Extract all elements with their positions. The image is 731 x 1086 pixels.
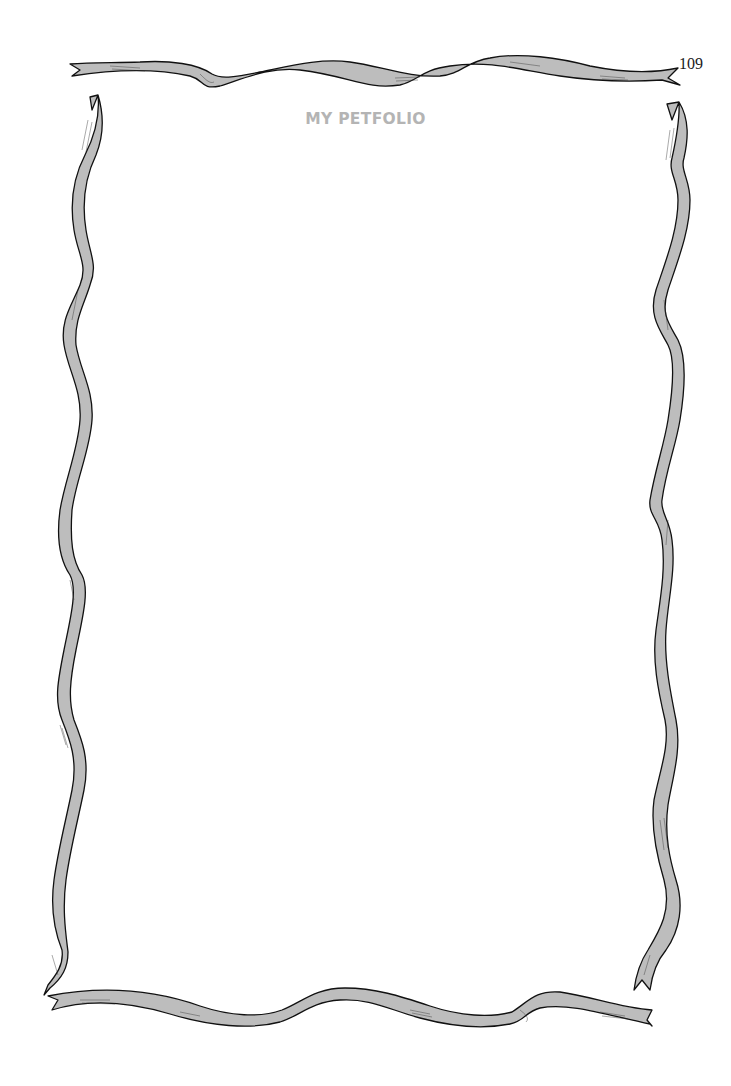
blank-content-area [95,140,635,960]
left-ribbon [44,95,102,995]
document-page: 109 MY PETFOLIO [0,0,731,1086]
top-ribbon [70,56,680,87]
right-ribbon [634,102,690,990]
bottom-ribbon [48,988,652,1027]
page-title: MY PETFOLIO [0,110,731,128]
